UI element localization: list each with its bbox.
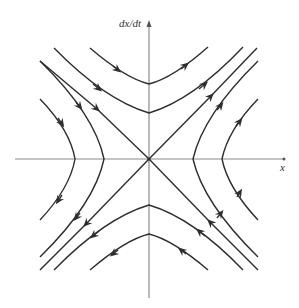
phase-portrait: dx/dt x (0, 0, 299, 308)
separatrix-unstable-ur (149, 96, 211, 159)
saddle-point (147, 157, 150, 160)
arrow-icon (217, 213, 221, 218)
arrow-icon (93, 231, 99, 236)
separatrix-stable-ul-2 (97, 109, 149, 159)
separatrix-stable-ul (40, 61, 97, 109)
arrow-icon (199, 231, 205, 236)
separatrix-stable-lr-2 (149, 159, 210, 222)
y-axis-label: dx/dt (119, 17, 142, 29)
x-axis-label: x (279, 161, 285, 173)
arrow-icon (236, 121, 240, 126)
arrow-icon (76, 102, 80, 107)
y-axis-arrow-icon (147, 20, 152, 27)
separatrix-unstable-ll (86, 159, 149, 224)
